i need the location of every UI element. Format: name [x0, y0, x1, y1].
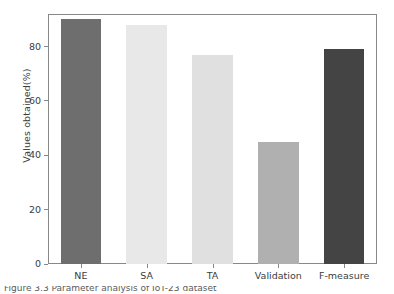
x-tick-mark — [278, 264, 279, 268]
bar-chart-figure: Values obtained(%) 020406080 NESATAValid… — [0, 0, 394, 294]
x-tick-label-ta: TA — [207, 270, 219, 281]
x-tick-mark — [147, 264, 148, 268]
bar-group — [180, 14, 245, 264]
bar-ta — [192, 55, 233, 264]
figure-caption: Figure 3.3 Parameter analysis of IoT-23 … — [0, 286, 394, 294]
bar-group — [246, 14, 311, 264]
bar-ne — [61, 19, 102, 264]
bar-group — [114, 14, 179, 264]
figure-caption-text: Figure 3.3 Parameter analysis of IoT-23 … — [4, 286, 216, 293]
y-tick-label: 80 — [29, 41, 41, 52]
y-axis-label: Values obtained(%) — [21, 26, 32, 206]
y-tick-label: 40 — [29, 149, 41, 160]
x-tick-mark — [81, 264, 82, 268]
bar-validation — [258, 142, 299, 264]
bar-series — [48, 14, 377, 264]
x-tick-mark — [344, 264, 345, 268]
x-tick-label-validation: Validation — [255, 270, 302, 281]
y-tick-label: 20 — [29, 204, 41, 215]
bar-group — [311, 14, 376, 264]
y-tick-label: 60 — [29, 95, 41, 106]
x-tick-mark — [213, 264, 214, 268]
bar-group — [48, 14, 113, 264]
x-tick-label-f-measure: F-measure — [319, 270, 369, 281]
y-tick-label: 0 — [35, 258, 41, 269]
bar-f-measure — [324, 49, 365, 264]
x-tick-label-ne: NE — [74, 270, 87, 281]
x-tick-label-sa: SA — [140, 270, 153, 281]
bar-sa — [126, 25, 167, 264]
